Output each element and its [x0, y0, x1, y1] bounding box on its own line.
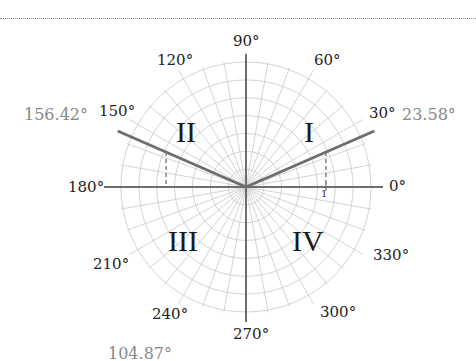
quadrant-label-i: I — [304, 117, 314, 147]
angle-value-23-58: 23.58° — [402, 107, 456, 123]
quadrant-label-iv: IV — [292, 226, 324, 256]
angle-value-104-87: 104.87° — [108, 346, 172, 361]
angle-label-60: 60° — [314, 53, 341, 68]
angle-label-90: 90° — [233, 34, 260, 49]
angle-label-330: 330° — [373, 248, 409, 263]
angle-label-150: 150° — [99, 104, 135, 119]
quadrant-label-ii: II — [176, 117, 196, 147]
angle-label-30: 30° — [369, 106, 396, 121]
angle-label-210: 210° — [93, 257, 129, 272]
angle-label-270: 270° — [233, 327, 269, 342]
angle-label-0: 0° — [389, 179, 406, 194]
angle-label-240: 240° — [152, 307, 188, 322]
angle-label-120: 120° — [157, 53, 193, 68]
unit-tick-label: 1 — [321, 188, 327, 199]
angle-label-180: 180° — [68, 180, 104, 195]
angle-value-156-42: 156.42° — [24, 107, 88, 123]
angle-label-300: 300° — [320, 305, 356, 320]
quadrant-label-iii: III — [168, 226, 198, 256]
